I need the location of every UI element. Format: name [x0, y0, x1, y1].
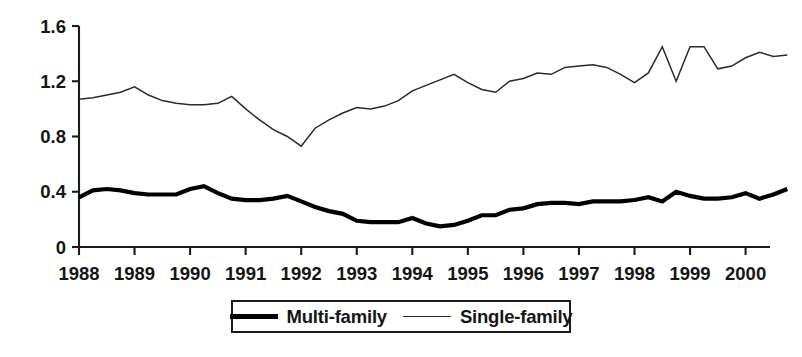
- x-tick-label: 1998: [614, 263, 655, 284]
- legend-label-multi-family: Multi-family: [287, 306, 387, 328]
- y-tick-label: 0.8: [40, 126, 66, 147]
- x-tick-label: 1994: [392, 263, 434, 284]
- y-axis: 00.40.81.21.6: [40, 16, 79, 258]
- x-tick-label: 1995: [447, 263, 488, 284]
- y-tick-label: 1.2: [40, 71, 66, 92]
- x-tick-label: 1993: [336, 263, 377, 284]
- x-axis-tick-labels: 1988198919901991199219931994199519961997…: [58, 263, 766, 284]
- x-tick-label: 1999: [669, 263, 710, 284]
- series-line-single-family: [79, 47, 787, 146]
- legend-item-multi-family: Multi-family: [230, 306, 387, 328]
- legend-swatch-multi-family-icon: [230, 314, 278, 319]
- chart-legend: Multi-family Single-family: [231, 300, 571, 333]
- legend-swatch-single-family-icon: [403, 316, 451, 317]
- y-tick-label: 1.6: [40, 16, 66, 37]
- x-axis-ticks: [79, 247, 746, 255]
- y-tick-label: 0: [56, 237, 66, 258]
- x-tick-label: 1991: [225, 263, 266, 284]
- series-line-multi-family: [79, 186, 787, 226]
- x-tick-label: 2000: [725, 263, 766, 284]
- x-tick-label: 1989: [114, 263, 155, 284]
- legend-label-single-family: Single-family: [460, 306, 573, 328]
- y-tick-label: 0.4: [40, 181, 66, 202]
- x-axis: 1988198919901991199219931994199519961997…: [58, 247, 770, 284]
- x-tick-label: 1992: [281, 263, 322, 284]
- x-tick-label: 1988: [58, 263, 99, 284]
- data-series-group: [79, 47, 787, 227]
- x-tick-label: 1997: [558, 263, 599, 284]
- legend-item-single-family: Single-family: [403, 306, 573, 328]
- y-axis-tick-labels: 00.40.81.21.6: [40, 16, 66, 258]
- x-tick-label: 1996: [503, 263, 544, 284]
- x-tick-label: 1990: [170, 263, 211, 284]
- chart-container: 00.40.81.21.6 19881989199019911992199319…: [0, 0, 802, 357]
